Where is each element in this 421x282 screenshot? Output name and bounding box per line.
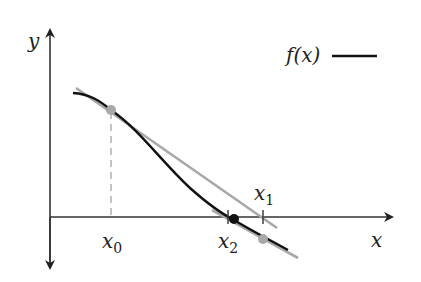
point-x1-gray (258, 234, 268, 244)
x2-label: x2 (218, 229, 238, 256)
x-axis-label: x (371, 228, 382, 252)
point-x0-gray (106, 105, 116, 115)
newton-method-diagram: y x x0 x2 x1 f(x) (0, 0, 421, 282)
legend-label: f(x) (284, 43, 320, 67)
point-root-black (229, 214, 239, 224)
x1-label: x1 (254, 181, 274, 208)
function-curve (73, 93, 288, 250)
x0-label: x0 (102, 229, 122, 256)
y-axis-label: y (27, 29, 40, 53)
